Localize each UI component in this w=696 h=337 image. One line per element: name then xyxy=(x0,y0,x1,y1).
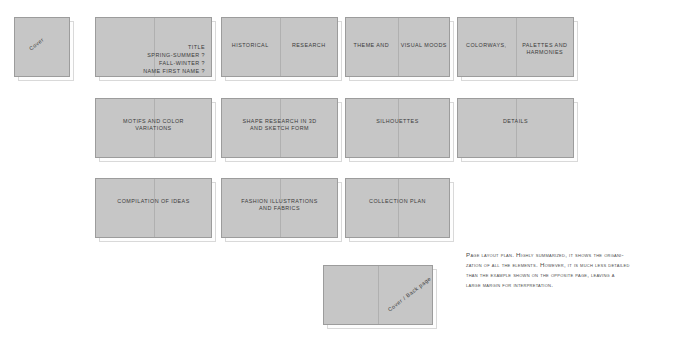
spread-historical-research[interactable]: HISTORICALRESEARCH xyxy=(221,17,338,77)
spread-fold-line xyxy=(398,18,399,76)
spread-silhouettes[interactable]: SILHOUETTES xyxy=(345,98,450,158)
spread-fold-line xyxy=(516,18,517,76)
spread-fold-line xyxy=(398,179,399,237)
caption-text: Page layout plan. Highly summarized, it … xyxy=(466,250,690,290)
spread-fashion-illustrations[interactable]: FASHION ILLUSTRATIONS AND FABRICS xyxy=(221,178,338,238)
spread-cover-back-page[interactable]: Cover / Back page xyxy=(323,265,433,325)
spread-compilation-of-ideas[interactable]: COMPILATION OF IDEAS xyxy=(95,178,212,238)
spread-fold-line xyxy=(154,18,155,76)
spread-fold-line xyxy=(280,179,281,237)
spread-fold-line xyxy=(280,18,281,76)
spread-theme-visual-moods[interactable]: THEME ANDVISUAL MOODS xyxy=(345,17,450,77)
spread-fold-line xyxy=(516,99,517,157)
spread-title[interactable]: TITLE Spring-Summer ? Fall-Winter ? NAME… xyxy=(95,17,212,77)
spread-fold-line xyxy=(154,99,155,157)
spread-fold-line xyxy=(154,179,155,237)
spread-page xyxy=(14,17,70,77)
spread-details[interactable]: DETAILS xyxy=(457,98,574,158)
spread-colorways-palettes[interactable]: COLORWAYS,PALETTES AND HARMONIES xyxy=(457,17,574,77)
spread-fold-line xyxy=(280,99,281,157)
spread-shape-research[interactable]: SHAPE RESEARCH IN 3D AND SKETCH FORM xyxy=(221,98,338,158)
spread-fold-line xyxy=(378,266,379,324)
spread-fold-line xyxy=(398,99,399,157)
spread-motifs-color-variations[interactable]: MOTIFS AND COLOR VARIATIONS xyxy=(95,98,212,158)
spread-cover[interactable]: Cover xyxy=(14,17,70,77)
spread-collection-plan[interactable]: COLLECTION PLAN xyxy=(345,178,450,238)
